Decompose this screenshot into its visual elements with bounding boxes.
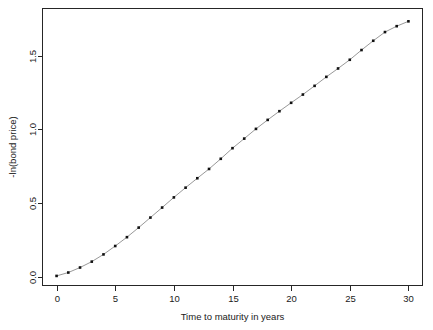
data-point <box>90 260 93 263</box>
data-point <box>137 226 140 229</box>
data-point <box>313 85 316 88</box>
data-point <box>337 67 340 70</box>
bond-price-line-chart: 051015202530 0.00.51.01.5 Time to maturi… <box>0 0 433 330</box>
data-point <box>325 76 328 79</box>
data-point <box>372 39 375 42</box>
data-point <box>302 93 305 96</box>
data-point <box>114 245 117 248</box>
data-point <box>278 110 281 113</box>
x-axis-title: Time to maturity in years <box>181 311 285 322</box>
data-point <box>231 147 234 150</box>
chart-figure: 051015202530 0.00.51.01.5 Time to maturi… <box>0 0 433 330</box>
data-point <box>55 275 58 278</box>
data-point <box>266 119 269 122</box>
x-tick-label: 30 <box>403 293 414 304</box>
x-tick-label: 25 <box>345 293 356 304</box>
data-point <box>161 206 164 209</box>
data-point <box>126 236 129 239</box>
x-tick-label: 20 <box>286 293 297 304</box>
data-point <box>149 216 152 219</box>
y-tick-label: 1.0 <box>27 123 38 136</box>
y-axis-title: -ln(bond price) <box>7 116 18 177</box>
data-point <box>196 177 199 180</box>
data-point <box>290 102 293 105</box>
data-point <box>255 128 258 131</box>
data-point <box>360 49 363 52</box>
data-point <box>184 186 187 189</box>
data-point <box>219 157 222 160</box>
x-tick-label: 15 <box>228 293 239 304</box>
chart-background <box>0 0 433 330</box>
data-point <box>79 266 82 269</box>
data-point <box>208 168 211 171</box>
y-tick-label: 1.5 <box>27 50 38 63</box>
data-point <box>384 31 387 34</box>
data-point <box>348 58 351 61</box>
data-point <box>102 253 105 256</box>
x-tick-label: 0 <box>55 293 60 304</box>
data-point <box>67 271 70 274</box>
x-tick-label: 5 <box>113 293 118 304</box>
data-point <box>173 196 176 199</box>
data-point <box>395 25 398 28</box>
x-tick-label: 10 <box>169 293 180 304</box>
data-point <box>243 137 246 140</box>
y-tick-label: 0.5 <box>27 197 38 210</box>
data-point <box>407 20 410 23</box>
y-tick-label: 0.0 <box>27 271 38 284</box>
